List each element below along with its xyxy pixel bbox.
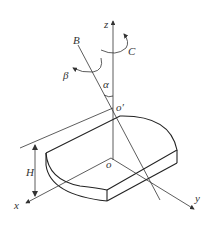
height-label: H [25,166,35,178]
kinematics-diagram: z C B β α o′ x y o H [0,0,213,228]
height-arrow-bottom-icon [32,191,38,197]
alpha-angle-label: α [103,78,109,90]
c-rotation-arrow-icon [101,34,128,53]
height-arrow-top-icon [32,144,38,150]
b-axis-line [78,45,160,200]
beta-rotation-arrow-icon [73,58,102,72]
origin-label: o [106,158,112,170]
beta-rotation-label: β [62,69,69,81]
x-axis-line [26,158,111,203]
table-bottom-curve [46,165,107,201]
table-top-face [46,116,177,190]
x-axis-label: x [13,199,19,211]
y-axis-label: y [194,192,200,204]
b-axis-label: B [73,34,80,46]
c-rotation-label: C [128,45,136,57]
pivot-origin-label: o′ [116,101,125,113]
table-top-front-curve [46,153,107,190]
extension-line-top [20,108,113,148]
y-axis-line [111,158,194,209]
table-bottom-edge [107,163,177,201]
z-axis-label: z [103,18,109,30]
